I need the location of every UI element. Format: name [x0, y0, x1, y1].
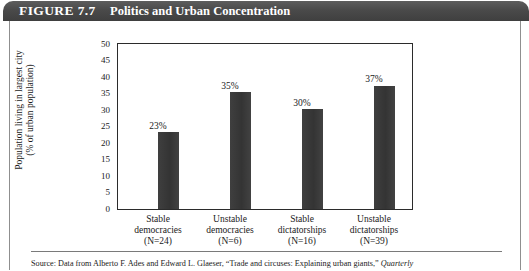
bar-unstable-dictatorships[interactable]: [374, 86, 395, 209]
y-axis-title-line-1: Population living in largest city: [14, 23, 25, 198]
y-tick-45: 45: [88, 56, 110, 65]
x-label-line-2: dictatorships: [331, 225, 417, 236]
y-tick-15: 15: [88, 155, 110, 164]
y-tick-5: 5: [88, 188, 110, 197]
bar-unstable-democracies[interactable]: [230, 92, 251, 209]
y-tick-10: 10: [88, 172, 110, 181]
bar-value-stable-dictatorships: 30%: [280, 98, 324, 108]
y-tick-20: 20: [88, 139, 110, 148]
figure-header-band: FIGURE 7.7 Politics and Urban Concentrat…: [3, 1, 529, 21]
y-tick-30: 30: [88, 106, 110, 115]
figure-title: Politics and Urban Concentration: [110, 4, 290, 19]
y-axis-title: Population living in largest city (% of …: [14, 23, 36, 198]
y-tick-25: 25: [88, 122, 110, 131]
figure-number-label: FIGURE 7.7: [19, 3, 96, 19]
x-label-unstable-dictatorships: Unstable dictatorships (N=39): [331, 214, 417, 247]
y-tick-50: 50: [88, 40, 110, 49]
source-divider: [31, 251, 502, 252]
bar-chart: Population living in largest city (% of …: [0, 21, 529, 221]
bar-value-unstable-dictatorships: 37%: [352, 74, 396, 84]
x-label-line-1: Unstable: [331, 214, 417, 225]
source-note-journal: Quarterly: [381, 259, 413, 268]
bar-value-stable-democracies: 23%: [136, 121, 180, 131]
x-label-sample-size: (N=39): [331, 236, 417, 247]
source-note-text: Source: Data from Alberto F. Ades and Ed…: [31, 259, 381, 268]
figure-page: FIGURE 7.7 Politics and Urban Concentrat…: [0, 0, 529, 271]
y-tick-0: 0: [88, 205, 110, 214]
y-axis-title-line-2: (% of urban population): [25, 23, 36, 198]
bar-stable-dictatorships[interactable]: [302, 109, 323, 209]
y-tick-35: 35: [88, 89, 110, 98]
source-note: Source: Data from Alberto F. Ades and Ed…: [31, 259, 513, 269]
bar-stable-democracies[interactable]: [158, 132, 179, 209]
bar-value-unstable-democracies: 35%: [208, 81, 252, 91]
y-tick-40: 40: [88, 73, 110, 82]
